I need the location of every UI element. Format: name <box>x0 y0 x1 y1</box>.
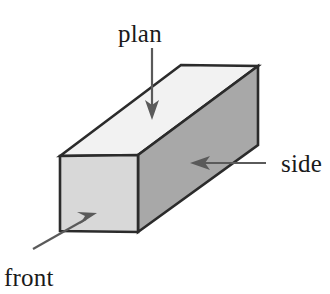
cuboid-diagram: plan side front <box>0 0 330 294</box>
cuboid-front-face <box>60 155 138 232</box>
label-plan: plan <box>118 20 162 47</box>
label-side: side <box>281 150 322 177</box>
diagram-canvas: plan side front <box>0 0 330 294</box>
label-front: front <box>4 264 54 291</box>
